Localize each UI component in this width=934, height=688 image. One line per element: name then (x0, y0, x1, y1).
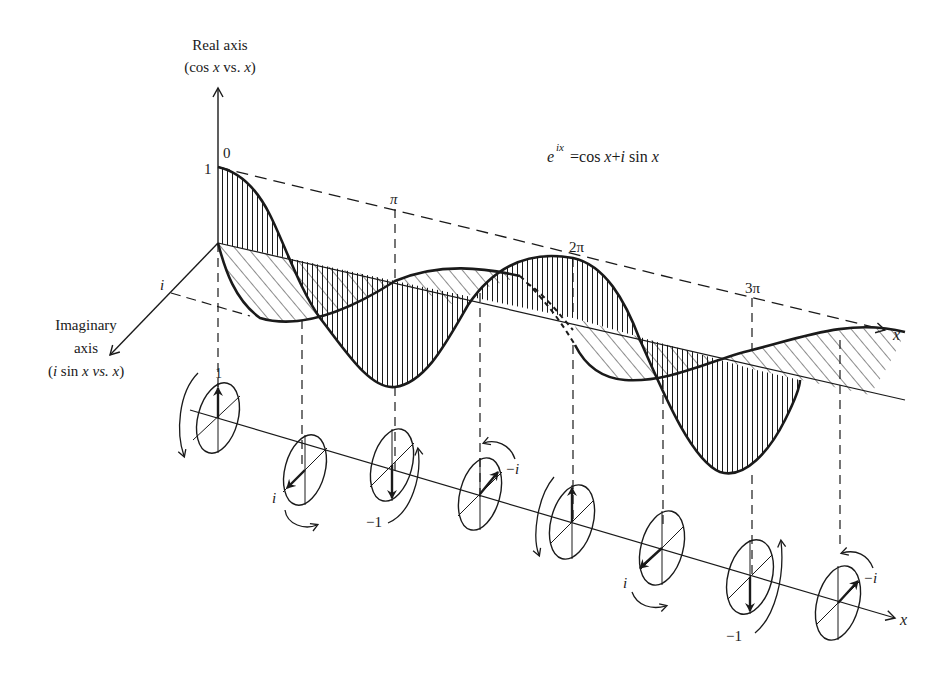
rotation-arrow-icon (632, 592, 666, 607)
phasor-arrow-down-left-icon (287, 470, 305, 488)
phasor-0-label: 1 (215, 366, 222, 381)
phasor-5-label: i (623, 575, 627, 591)
phasor-3-label: −i (505, 461, 519, 477)
euler-formula-diagram: Real axis (cos x vs. x) e ix =cos x+i si… (0, 0, 934, 688)
phasor-2-label: −1 (366, 514, 382, 530)
phasor-arrow-down-left-icon (640, 548, 662, 568)
label-two-pi: 2π (569, 239, 585, 255)
rotation-arrow-icon (180, 373, 198, 456)
label-i-axis: i (160, 277, 164, 293)
phasor-3: −i (451, 442, 519, 535)
phasor-4 (536, 477, 602, 564)
phasor-5: i (623, 506, 692, 608)
label-pi: π (390, 191, 398, 207)
phasor-arrow-up-right-icon (480, 472, 498, 494)
imaginary-axis-label: Imaginary axis (i sin x vs. x) (48, 317, 124, 380)
equation-base: e (547, 148, 554, 165)
phasor-x-axis (190, 410, 895, 618)
label-three-pi: 3π (745, 280, 761, 296)
imaginary-axis-label-line3: (i sin x vs. x) (48, 363, 124, 380)
phasor-6: −1 (719, 535, 782, 644)
equation-exponent: ix (556, 141, 564, 153)
imaginary-axis-arrow (110, 243, 218, 355)
label-x-bottom: x (899, 611, 907, 628)
phasor-arrow-up-right-icon (838, 581, 858, 603)
rotation-arrow-icon (755, 541, 782, 633)
equation-rhs: =cos x+i sin x (570, 148, 659, 165)
phasor-1-label: i (272, 490, 276, 506)
phasor-7: −i (808, 552, 877, 645)
label-one: 1 (204, 161, 212, 177)
imaginary-axis-label-line1: Imaginary (55, 317, 117, 333)
phasor-6-label: −1 (726, 628, 742, 644)
euler-equation: e ix =cos x+i sin x (547, 141, 659, 165)
imaginary-axis-label-line2: axis (74, 340, 98, 356)
real-axis-label-line1: Real axis (192, 37, 248, 53)
phasor-0: 1 (180, 366, 247, 458)
real-axis-label-line2: (cos x vs. x) (184, 59, 256, 76)
phasor-7-label: −i (863, 570, 877, 586)
rotation-arrow-icon (484, 442, 515, 459)
phasor-1: i (272, 430, 334, 527)
label-zero: 0 (223, 145, 231, 161)
rotation-arrow-icon (285, 510, 317, 527)
phasor-2: −1 (363, 424, 421, 530)
real-axis-label: Real axis (cos x vs. x) (184, 37, 256, 76)
